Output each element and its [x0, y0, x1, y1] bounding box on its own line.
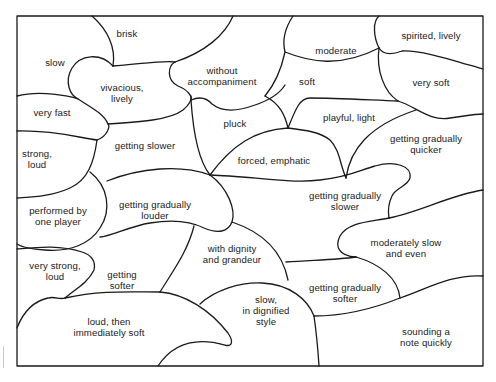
- piece-label-getting-slower: getting slower: [115, 140, 176, 151]
- piece-label-moderately-slow: moderately slow and even: [371, 237, 442, 259]
- piece-label-getting-gradually-slower: getting gradually slower: [309, 190, 381, 212]
- piece-edge: [160, 226, 194, 292]
- piece-edge: [210, 128, 346, 178]
- piece-edge: [191, 100, 210, 175]
- piece-label-playful: playful, light: [323, 112, 375, 123]
- piece-label-strong-loud: strong, loud: [22, 148, 52, 170]
- piece-label-brisk: brisk: [117, 28, 138, 39]
- piece-edge: [17, 93, 78, 99]
- piece-label-moderate: moderate: [315, 45, 356, 56]
- piece-label-forced-emphatic: forced, emphatic: [238, 155, 311, 166]
- piece-edge: [175, 16, 233, 62]
- piece-edge: [286, 257, 356, 262]
- piece-edge: [17, 131, 97, 140]
- piece-edge: [158, 292, 232, 366]
- piece-edge: [314, 316, 319, 366]
- piece-label-without-accompaniment: without accompaniment: [187, 65, 256, 87]
- scan-margin-mark: [3, 346, 4, 368]
- piece-label-slow-dignified: slow, in dignified style: [242, 294, 289, 327]
- piece-edge: [389, 190, 483, 218]
- piece-label-sounding-note: sounding a note quickly: [400, 326, 452, 348]
- piece-label-getting-gradually-softer: getting gradually softer: [309, 282, 381, 304]
- piece-edge: [65, 292, 160, 298]
- piece-edge: [265, 16, 293, 96]
- piece-edge: [379, 48, 483, 69]
- piece-label-getting-gradually-quicker: getting gradually quicker: [390, 133, 462, 155]
- piece-label-spirited: spirited, lively: [401, 30, 460, 41]
- piece-label-very-strong-loud: very strong, loud: [29, 260, 80, 282]
- piece-label-slow: slow: [45, 57, 65, 68]
- piece-label-with-dignity: with dignity and grandeur: [203, 243, 261, 265]
- piece-edge: [113, 61, 175, 66]
- piece-edge: [97, 124, 109, 140]
- piece-edge: [398, 101, 483, 119]
- piece-label-very-soft: very soft: [412, 77, 449, 88]
- piece-label-vivacious: vivacious, lively: [100, 82, 143, 104]
- piece-edge: [378, 48, 398, 101]
- piece-edge: [400, 276, 483, 298]
- piece-edge: [265, 96, 288, 128]
- piece-label-performed-by-one-player: performed by one player: [29, 205, 87, 227]
- piece-edge: [374, 16, 379, 48]
- piece-label-loud-then-soft: loud, then immediately soft: [74, 316, 145, 338]
- piece-label-getting-gradually-louder: getting gradually louder: [119, 199, 191, 221]
- piece-label-getting-softer: getting softer: [107, 269, 137, 291]
- piece-edge: [17, 297, 65, 328]
- piece-edge: [107, 169, 210, 181]
- piece-label-pluck: pluck: [224, 118, 247, 129]
- piece-label-soft: soft: [299, 76, 315, 87]
- piece-label-very-fast: very fast: [33, 107, 70, 118]
